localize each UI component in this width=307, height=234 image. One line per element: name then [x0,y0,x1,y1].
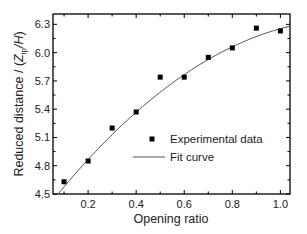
chart-canvas: 0.20.40.60.81.0 4.54.85.15.45.76.06.3 Ex… [0,0,307,234]
plot-border [53,14,290,194]
data-point-square-icon [62,179,67,184]
y-tick-label: 5.7 [35,75,50,87]
y-tick-label: 6.0 [35,47,50,59]
data-point-square-icon [134,110,139,115]
y-tick-label: 5.1 [35,131,50,143]
x-tick-label: 0.2 [80,198,95,210]
plot-frame [53,14,290,194]
x-tick-label: 0.8 [225,198,240,210]
fit-curve-line [58,26,290,194]
y-axis-title: Reduced distance / (Zip/H) [12,31,28,176]
x-tick-label: 1.0 [273,198,288,210]
data-point-square-icon [230,45,235,50]
fit-curve [58,26,290,194]
y-tick-label: 4.8 [35,160,50,172]
data-point-square-icon [278,28,283,33]
x-tick-label: 0.6 [177,198,192,210]
data-point-square-icon [86,159,91,164]
y-axis: 4.54.85.15.45.76.06.3 [35,18,290,200]
x-tick-label: 0.4 [129,198,144,210]
legend-label-fit: Fit curve [170,151,214,163]
y-tick-label: 6.3 [35,18,50,30]
legend-square-marker-icon [150,137,155,142]
data-point-square-icon [158,75,163,80]
data-point-square-icon [182,75,187,80]
y-tick-label: 5.4 [35,103,50,115]
x-axis-title: Opening ratio [133,212,208,226]
data-point-square-icon [206,55,211,60]
data-point-square-icon [254,26,259,31]
legend-label-experimental: Experimental data [170,133,263,145]
data-point-square-icon [110,126,115,131]
x-axis: 0.20.40.60.81.0 [64,14,288,210]
legend: Experimental data Fit curve [133,133,263,163]
y-tick-label: 4.5 [35,188,50,200]
